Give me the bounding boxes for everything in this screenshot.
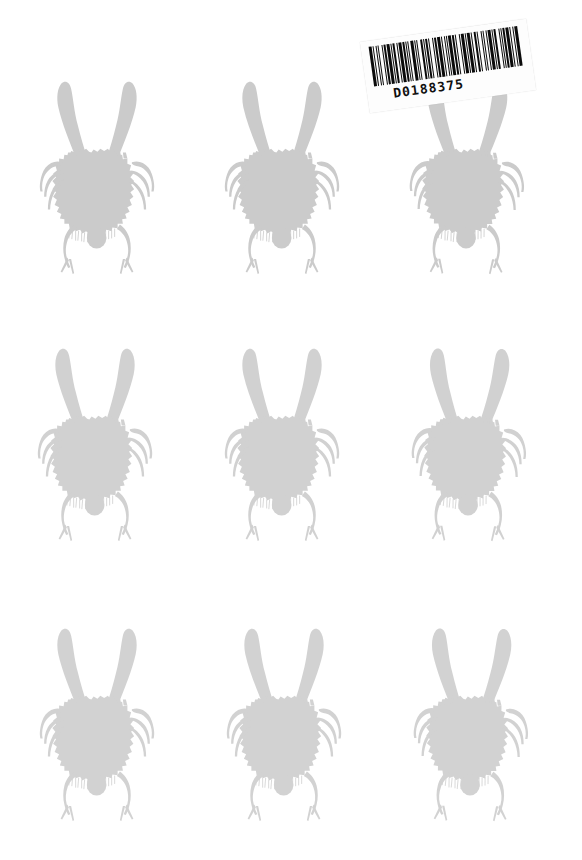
beetle-silhouette [12,58,182,283]
beetle-silhouette [12,605,182,830]
specimen-3-1 [12,605,182,830]
beetle-silhouette [10,325,180,550]
beetle-silhouette [199,605,369,830]
scanned-page: D0188375 [0,0,582,860]
beetle-silhouette [383,324,555,550]
specimen-1-2 [197,58,367,283]
specimen-3-2 [199,605,369,830]
specimen-3-3 [385,604,557,830]
specimen-2-1 [10,325,180,550]
specimen-2-2 [197,325,367,550]
beetle-silhouette [197,58,367,283]
beetle-silhouette [385,604,557,830]
specimen-2-3 [383,324,555,550]
specimen-1-1 [12,58,182,283]
specimen-grid [0,0,582,860]
beetle-silhouette [197,325,367,550]
